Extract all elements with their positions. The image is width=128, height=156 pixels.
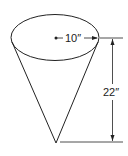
radius-arrowhead — [92, 36, 98, 40]
radius-label: 10″ — [65, 32, 81, 44]
cone-diagram: 10″ 22″ — [0, 0, 128, 156]
height-label: 22″ — [103, 86, 119, 98]
height-arrowhead-top — [111, 39, 115, 45]
cone-left-side — [12, 42, 56, 143]
height-arrowhead-bottom — [111, 135, 115, 141]
